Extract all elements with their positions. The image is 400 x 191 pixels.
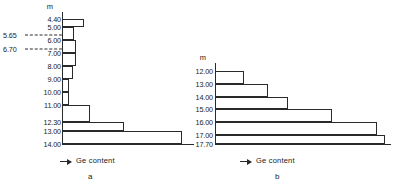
y-tick-label: 17.00 bbox=[171, 131, 213, 140]
y-tick-label: 10.00 bbox=[33, 87, 61, 96]
bar bbox=[62, 122, 124, 131]
y-tick-label: 12.00 bbox=[171, 67, 213, 76]
y-tick-label: 9.00 bbox=[33, 74, 61, 83]
bar bbox=[215, 122, 377, 135]
bar bbox=[62, 53, 76, 66]
y-tick-label: 13.00 bbox=[171, 79, 213, 88]
x-axis-arrow-b bbox=[240, 161, 251, 162]
unit-header-b: m bbox=[193, 53, 213, 62]
depth-annotation-label: 5.65 bbox=[3, 31, 17, 40]
bar bbox=[62, 131, 182, 144]
x-axis-arrow-a bbox=[60, 161, 71, 162]
chart-panel-a: m 4.405.006.007.008.009.0010.0011.0012.3… bbox=[0, 0, 195, 191]
depth-annotation-label: 6.70 bbox=[3, 44, 17, 53]
bar bbox=[215, 97, 288, 110]
y-tick-label: 12.30 bbox=[33, 117, 61, 126]
bar bbox=[215, 84, 268, 97]
panel-caption-a: a bbox=[88, 172, 92, 181]
bar bbox=[62, 40, 76, 53]
y-tick-label: 7.00 bbox=[33, 48, 61, 57]
bar bbox=[62, 27, 74, 40]
y-tick-label: 6.00 bbox=[33, 35, 61, 44]
x-axis-label-a: Ge content bbox=[76, 156, 115, 165]
figure-root: m 4.405.006.007.008.009.0010.0011.0012.3… bbox=[0, 0, 400, 191]
x-axis-b bbox=[215, 144, 391, 145]
y-tick-label: 13.00 bbox=[33, 126, 61, 135]
bar bbox=[215, 109, 332, 122]
depth-annotation-leader bbox=[25, 35, 62, 36]
y-tick-label: 11.00 bbox=[33, 100, 61, 109]
y-tick-label: 14.00 bbox=[171, 92, 213, 101]
depth-annotation-leader bbox=[25, 48, 62, 49]
bar bbox=[215, 135, 385, 144]
x-axis-label-b: Ge content bbox=[256, 156, 295, 165]
unit-header-a: m bbox=[40, 2, 60, 11]
y-tick-label: 16.00 bbox=[171, 118, 213, 127]
y-tick-label: 15.00 bbox=[171, 105, 213, 114]
y-tick-label: 17.70 bbox=[171, 140, 213, 149]
chart-panel-b: m 12.0013.0014.0015.0016.0017.0017.70 Ge… bbox=[195, 0, 400, 191]
bar bbox=[62, 92, 69, 105]
bar bbox=[62, 66, 73, 79]
bar bbox=[62, 19, 84, 27]
y-tick-label: 8.00 bbox=[33, 61, 61, 70]
y-tick-label: 14.00 bbox=[33, 140, 61, 149]
bar bbox=[62, 105, 90, 122]
y-tick-label: 5.00 bbox=[33, 22, 61, 31]
panel-caption-b: b bbox=[275, 172, 279, 181]
bar bbox=[62, 79, 69, 92]
bar bbox=[215, 71, 244, 84]
